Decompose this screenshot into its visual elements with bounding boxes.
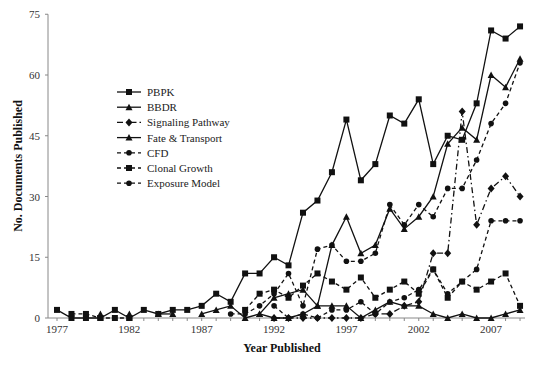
data-point-marker [430, 214, 436, 220]
data-point-marker [488, 218, 494, 224]
data-point-marker [329, 169, 335, 175]
legend-label: Exposure Model [147, 177, 220, 189]
data-point-marker [314, 270, 320, 276]
legend-marker-icon [126, 165, 132, 171]
data-point-marker [517, 60, 523, 66]
series-pbpk [54, 23, 523, 321]
data-point-marker [271, 303, 277, 309]
data-point-marker [387, 113, 393, 119]
data-point-marker [358, 275, 364, 281]
data-point-marker [372, 295, 378, 301]
y-tick-label: 0 [35, 312, 41, 324]
x-tick-label: 1987 [191, 323, 214, 335]
data-point-marker [112, 307, 118, 313]
data-point-marker [357, 250, 364, 257]
data-point-marker [445, 186, 451, 192]
data-point-marker [344, 307, 350, 313]
data-point-marker [459, 107, 466, 115]
data-point-marker [386, 310, 393, 318]
data-point-marker [416, 291, 422, 297]
data-point-marker [344, 259, 350, 265]
data-point-marker [242, 311, 248, 317]
data-point-marker [257, 291, 263, 297]
data-point-marker [228, 311, 234, 317]
data-point-marker [430, 161, 436, 167]
data-point-marker [373, 311, 379, 317]
data-point-marker [83, 311, 89, 317]
data-point-marker [286, 315, 292, 321]
data-point-marker [358, 299, 364, 305]
data-point-marker [329, 307, 335, 313]
data-point-marker [343, 213, 350, 220]
data-point-marker [126, 315, 132, 321]
legend-item: Exposure Model [117, 177, 220, 189]
data-point-marker [112, 315, 118, 321]
y-tick-label: 60 [29, 69, 41, 81]
legend-label: Signaling Pathway [147, 116, 230, 128]
data-point-marker [242, 270, 248, 276]
data-point-marker [474, 100, 480, 106]
y-tick-label: 45 [29, 130, 41, 142]
data-point-marker [474, 267, 480, 273]
data-point-marker [300, 283, 306, 289]
data-point-marker [97, 315, 103, 321]
data-point-marker [445, 133, 451, 139]
data-point-marker [517, 218, 523, 224]
data-point-marker [503, 101, 509, 107]
data-point-marker [184, 307, 190, 313]
data-point-marker [315, 315, 321, 321]
data-point-marker [328, 314, 335, 322]
data-point-marker [444, 249, 451, 257]
data-point-marker [300, 311, 306, 317]
data-point-marker [329, 279, 335, 285]
data-point-marker [358, 177, 364, 183]
data-point-marker [488, 184, 495, 192]
legend-label: Clonal Growth [147, 162, 213, 174]
data-point-marker [401, 295, 407, 301]
data-point-marker [473, 221, 480, 229]
legend-item: Fate & Transport [117, 132, 222, 144]
data-point-marker [387, 202, 393, 208]
x-tick-label: 1982 [118, 323, 140, 335]
data-point-marker [445, 295, 451, 301]
legend-item: Signaling Pathway [117, 116, 230, 128]
legend-marker-icon [126, 150, 132, 156]
data-point-marker [416, 96, 422, 102]
data-point-marker [141, 307, 147, 313]
data-point-marker [503, 36, 509, 42]
x-axis-title: Year Published [243, 341, 321, 355]
data-point-marker [401, 121, 407, 127]
legend-item: CFD [117, 147, 168, 159]
data-point-marker [488, 72, 495, 79]
y-tick-label: 30 [29, 191, 41, 203]
data-point-marker [416, 202, 422, 208]
data-point-marker [488, 279, 494, 285]
data-point-marker [199, 303, 205, 309]
data-point-marker [343, 117, 349, 123]
data-point-marker [430, 310, 437, 317]
x-tick-label: 1997 [335, 323, 358, 335]
series-cfd [271, 218, 523, 321]
data-point-marker [315, 246, 321, 252]
series-exposure-model [228, 60, 523, 317]
data-point-marker [503, 218, 509, 224]
legend-marker-icon [126, 118, 133, 126]
data-point-marker [387, 287, 393, 293]
legend-marker-icon [126, 89, 132, 95]
legend-label: BBDR [147, 101, 178, 113]
legend-item: Clonal Growth [117, 162, 213, 174]
data-point-marker [372, 161, 378, 167]
data-point-marker [459, 310, 466, 317]
legend-item: BBDR [117, 101, 178, 113]
data-point-marker [488, 27, 494, 33]
data-point-marker [517, 303, 523, 309]
data-point-marker [358, 259, 364, 265]
data-point-marker [459, 279, 465, 285]
series-clonal-growth [68, 266, 523, 321]
data-point-marker [257, 303, 263, 309]
x-tick-label: 2007 [480, 323, 503, 335]
data-point-marker [474, 287, 480, 293]
legend: PBPKBBDRSignaling PathwayFate & Transpor… [117, 86, 230, 189]
data-point-marker [430, 249, 437, 257]
axes: 015304560751977198219871992199720022007 [29, 8, 525, 335]
